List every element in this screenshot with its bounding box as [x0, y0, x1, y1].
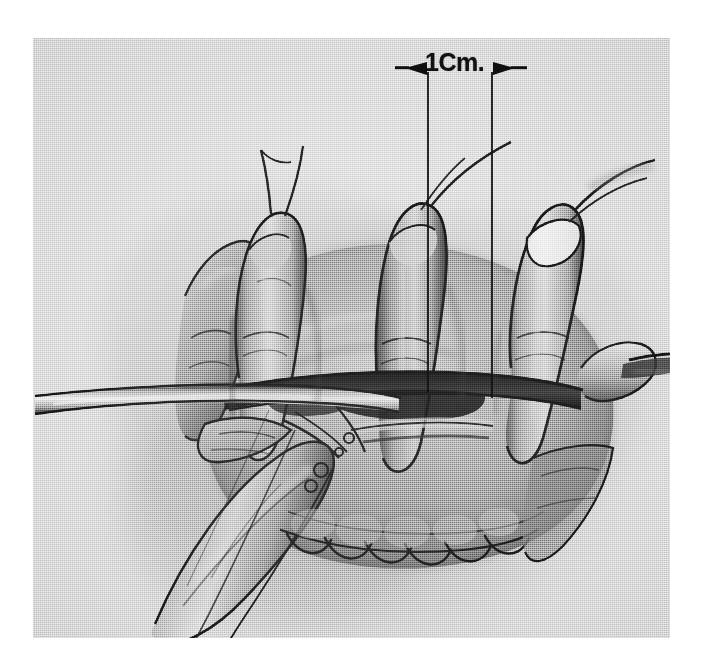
caliper-measure-label: 1Cm. [425, 50, 484, 75]
illustration-plate: 1Cm. [33, 38, 670, 638]
figure-frame: 1Cm. [0, 0, 701, 668]
surgical-illustration-artwork [33, 38, 670, 638]
